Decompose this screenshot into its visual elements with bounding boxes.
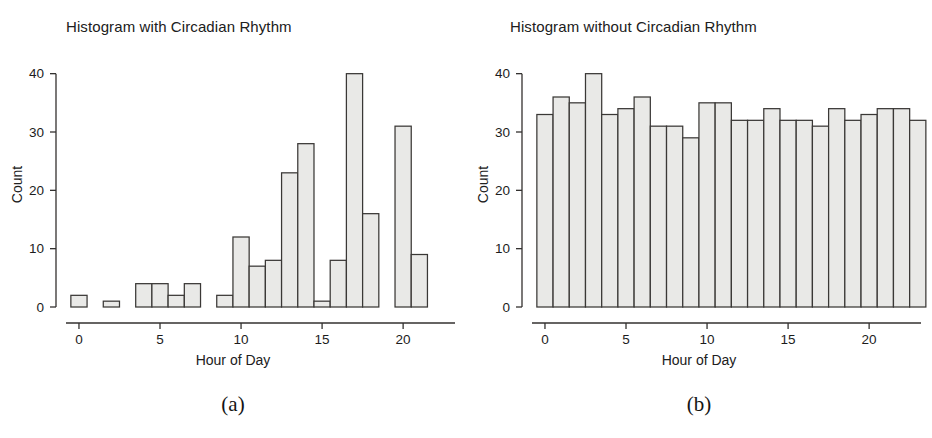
y-tick-label: 10 <box>495 241 510 256</box>
histogram-bar <box>233 237 249 307</box>
histogram-bar <box>650 126 666 307</box>
y-tick-label: 20 <box>29 183 44 198</box>
histogram-bar <box>667 126 683 307</box>
x-tick-label: 5 <box>156 332 164 347</box>
histogram-bar <box>71 295 87 307</box>
histogram-bar <box>553 97 569 307</box>
x-tick-label: 15 <box>315 332 330 347</box>
histogram-bar <box>314 301 330 307</box>
histogram-bar <box>168 295 184 307</box>
panel-b-x-axis-label: Hour of Day <box>466 352 932 368</box>
x-tick-label: 15 <box>781 332 796 347</box>
x-tick-label: 0 <box>75 332 83 347</box>
two-panel-histogram-figure: Histogram with Circadian Rhythm 01020304… <box>0 0 932 438</box>
histogram-bar <box>249 266 265 307</box>
histogram-bar <box>748 120 764 307</box>
histogram-bar <box>877 109 893 307</box>
y-tick-label: 0 <box>36 300 44 315</box>
x-tick-label: 20 <box>862 332 877 347</box>
y-tick-label: 10 <box>29 241 44 256</box>
histogram-bar <box>265 260 281 307</box>
histogram-bar <box>829 109 845 307</box>
x-tick-label: 0 <box>541 332 549 347</box>
histogram-bar <box>363 214 379 307</box>
x-tick-label: 5 <box>622 332 630 347</box>
histogram-bar <box>699 103 715 307</box>
histogram-bar <box>537 115 553 308</box>
panel-a-x-axis-label: Hour of Day <box>0 352 466 368</box>
panel-b-caption: (b) <box>466 392 932 417</box>
histogram-bar <box>152 284 168 307</box>
histogram-bar <box>764 109 780 307</box>
histogram-bar <box>634 97 650 307</box>
panel-b-chart-svg: 01020304005101520Count <box>466 40 932 350</box>
histogram-bar <box>411 255 427 308</box>
histogram-bar <box>602 115 618 308</box>
panel-a-plot-area: 01020304005101520Count <box>0 40 466 350</box>
y-tick-label: 30 <box>495 125 510 140</box>
histogram-bar <box>780 120 796 307</box>
histogram-bar <box>618 109 634 307</box>
panel-a-title: Histogram with Circadian Rhythm <box>0 18 532 35</box>
y-tick-label: 0 <box>502 300 510 315</box>
histogram-bar <box>812 126 828 307</box>
histogram-bar <box>282 173 298 307</box>
panel-a-chart-svg: 01020304005101520Count <box>0 40 466 350</box>
y-tick-label: 40 <box>29 66 44 81</box>
histogram-bar <box>796 120 812 307</box>
histogram-bar <box>845 120 861 307</box>
histogram-bar <box>184 284 200 307</box>
x-tick-label: 10 <box>234 332 249 347</box>
histogram-bar <box>585 74 601 307</box>
histogram-bar <box>217 295 233 307</box>
y-tick-label: 20 <box>495 183 510 198</box>
histogram-bar <box>731 120 747 307</box>
y-axis-label: Count <box>9 166 25 203</box>
panel-b: Histogram without Circadian Rhythm 01020… <box>466 0 932 438</box>
histogram-bar <box>346 74 362 307</box>
histogram-bar <box>715 103 731 307</box>
histogram-bar <box>893 109 909 307</box>
y-tick-label: 40 <box>495 66 510 81</box>
panel-b-title: Histogram without Circadian Rhythm <box>466 18 932 35</box>
panel-a-caption: (a) <box>0 392 466 417</box>
histogram-bar <box>103 301 119 307</box>
histogram-bar <box>683 138 699 307</box>
x-tick-label: 10 <box>700 332 715 347</box>
y-tick-label: 30 <box>29 125 44 140</box>
histogram-bar <box>395 126 411 307</box>
histogram-bar <box>330 260 346 307</box>
histogram-bar <box>861 115 877 308</box>
y-axis-label: Count <box>475 166 491 203</box>
histogram-bar <box>298 144 314 307</box>
panel-a: Histogram with Circadian Rhythm 01020304… <box>0 0 466 438</box>
histogram-bar <box>910 120 926 307</box>
bars-group <box>71 74 428 307</box>
x-tick-label: 20 <box>396 332 411 347</box>
bars-group <box>537 74 926 307</box>
histogram-bar <box>136 284 152 307</box>
histogram-bar <box>569 103 585 307</box>
panel-b-plot-area: 01020304005101520Count <box>466 40 932 350</box>
